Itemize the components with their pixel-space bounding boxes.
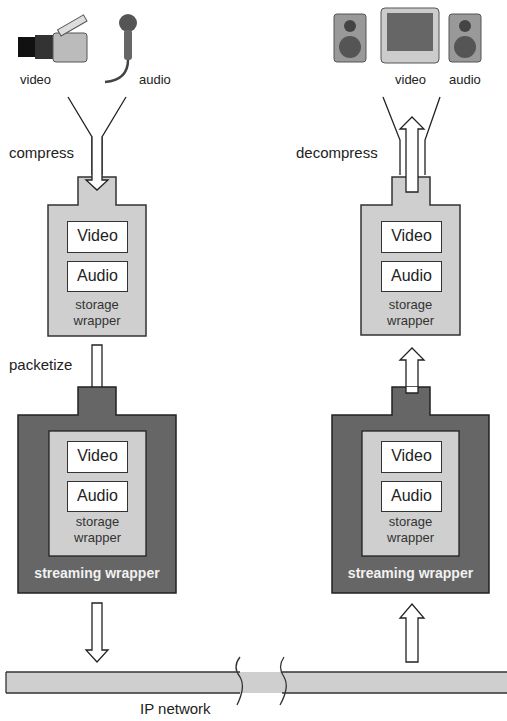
- sender-stream-audio-track: Audio: [67, 481, 128, 512]
- sender-streaming-wrapper-label: streaming wrapper: [18, 565, 176, 581]
- receiver-storage-video-track: Video: [381, 221, 442, 253]
- sender-storage-wrapper-label: storage wrapper: [48, 297, 146, 329]
- receiver-stream-video-track: Video: [381, 441, 442, 473]
- sender-stream-video-track: Video: [67, 441, 128, 473]
- ip-network-label: IP network: [140, 700, 211, 717]
- output-video-label: video: [395, 72, 426, 87]
- source-audio-label: audio: [139, 72, 171, 87]
- decompress-label: decompress: [296, 144, 378, 161]
- microphone-icon: [105, 14, 137, 82]
- video-camera-icon: [18, 15, 87, 62]
- receiver-inner-storage-label: storage wrapper: [362, 514, 459, 546]
- output-audio-label: audio: [449, 72, 481, 87]
- ip-network-bar: [6, 657, 507, 705]
- receiver-streaming-wrapper-label: streaming wrapper: [332, 565, 489, 581]
- source-video-label: video: [20, 72, 51, 87]
- receiver-storage-wrapper-label: storage wrapper: [361, 297, 460, 329]
- diagram-canvas: [0, 0, 507, 721]
- sender-storage-video-track: Video: [67, 221, 128, 253]
- receiver-stream-audio-track: Audio: [381, 481, 442, 512]
- sender-storage-audio-track: Audio: [67, 261, 128, 292]
- monitor-icon: [381, 8, 439, 63]
- compress-label: compress: [9, 144, 74, 161]
- packetize-label: packetize: [9, 356, 72, 373]
- sender-inner-storage-label: storage wrapper: [49, 514, 146, 546]
- receiver-storage-audio-track: Audio: [381, 261, 442, 292]
